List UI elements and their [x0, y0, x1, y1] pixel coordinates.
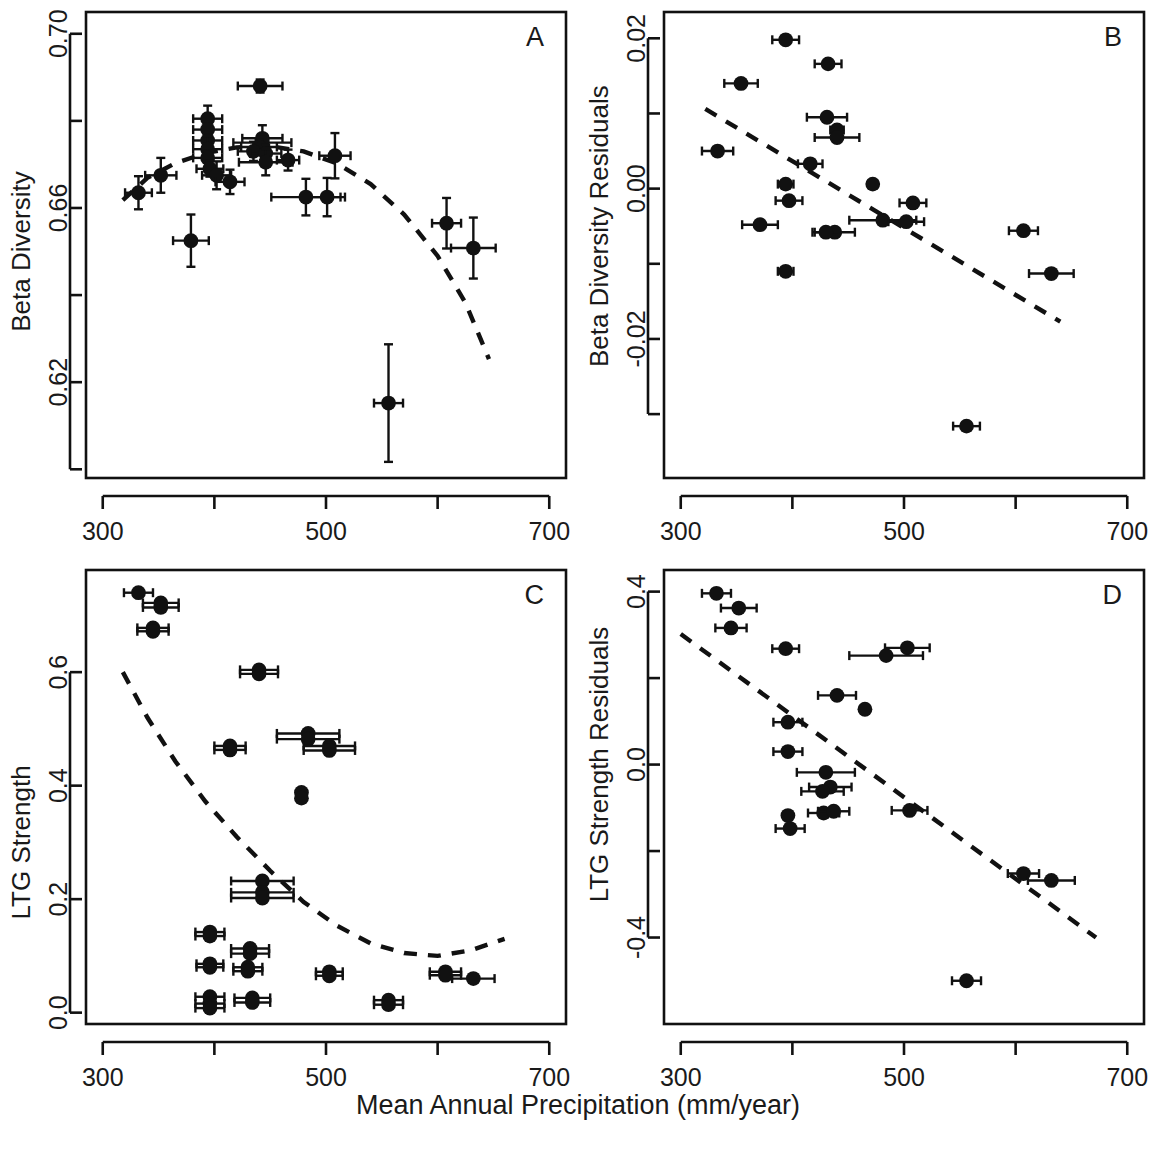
plot-frame [86, 12, 566, 478]
data-point [243, 946, 258, 961]
data-point [781, 808, 796, 823]
y-axis-title: LTG Strength [6, 765, 36, 919]
data-point [778, 641, 793, 656]
data-point [783, 821, 798, 836]
y-tick-label: 0.0 [622, 747, 650, 782]
data-point [830, 130, 845, 145]
data-point [858, 702, 873, 717]
data-point [223, 174, 238, 189]
data-point [466, 971, 481, 986]
data-point [724, 621, 739, 636]
data-point [322, 743, 337, 758]
data-points [124, 585, 495, 1015]
data-point [153, 168, 168, 183]
data-point [281, 153, 296, 168]
data-point [899, 214, 914, 229]
data-point [753, 217, 768, 232]
x-tick-label: 300 [660, 1063, 702, 1091]
data-point [803, 156, 818, 171]
data-point [184, 233, 199, 248]
data-point [203, 1001, 218, 1016]
data-point [245, 995, 260, 1010]
x-tick-label: 500 [883, 1063, 925, 1091]
trend-line [123, 672, 505, 956]
y-tick-label: 0.0 [44, 995, 72, 1030]
data-point [203, 960, 218, 975]
y-tick-label: 0.66 [44, 184, 72, 233]
x-tick-label: 300 [660, 517, 702, 545]
data-point [146, 624, 161, 639]
data-point [223, 742, 238, 757]
data-point [439, 216, 454, 231]
panel-letter-c: C [525, 580, 545, 610]
data-point [438, 968, 453, 983]
data-point [959, 973, 974, 988]
data-point [258, 155, 273, 170]
data-point [906, 196, 921, 211]
data-point [294, 791, 309, 806]
plot-b: 0.020.00-0.02300500700Beta Diversity Res… [578, 0, 1156, 545]
data-point [709, 586, 724, 601]
y-tick-label: 0.6 [44, 655, 72, 690]
plot-a: 0.700.660.62300500700Beta DiversityA [0, 0, 578, 545]
data-point [778, 32, 793, 47]
data-point [131, 585, 146, 600]
data-point [203, 929, 218, 944]
plot-d: 0.40.0-0.4300500700LTG Strength Residual… [578, 556, 1156, 1101]
data-point [731, 601, 746, 616]
x-tick-label: 700 [1106, 517, 1148, 545]
data-point [153, 600, 168, 615]
data-point [246, 144, 261, 159]
data-point [778, 177, 793, 192]
data-point [900, 640, 915, 655]
panel-d-ltg-strength-residuals: 0.40.0-0.4300500700LTG Strength Residual… [578, 556, 1156, 1101]
data-point [781, 715, 796, 730]
y-axis-title: Beta Diversity Residuals [584, 85, 614, 367]
trend-line [681, 634, 1096, 938]
data-point [1044, 266, 1059, 281]
plot-c: 0.00.20.40.6300500700LTG StrengthC [0, 556, 578, 1101]
data-point [322, 968, 337, 983]
y-tick-label: 0.70 [44, 9, 72, 58]
data-point [255, 891, 270, 906]
x-tick-label: 300 [82, 517, 124, 545]
data-points [702, 32, 1074, 433]
data-point [879, 648, 894, 663]
data-point [902, 803, 917, 818]
data-point [821, 56, 836, 71]
panel-letter-d: D [1103, 580, 1123, 610]
data-point [328, 148, 343, 163]
y-axis-title: Beta Diversity [6, 171, 36, 331]
data-point [466, 241, 481, 256]
data-point [320, 190, 335, 205]
data-point [782, 193, 797, 208]
data-point [252, 666, 267, 681]
data-point [381, 997, 396, 1012]
data-point [240, 964, 255, 979]
x-tick-label: 500 [305, 1063, 347, 1091]
panel-a-beta-diversity: 0.700.660.62300500700Beta DiversityA [0, 0, 578, 545]
y-tick-label: -0.02 [622, 310, 650, 367]
panel-c-ltg-strength: 0.00.20.40.6300500700LTG StrengthC [0, 556, 578, 1101]
data-point [1044, 873, 1059, 888]
y-axis-title: LTG Strength Residuals [584, 627, 614, 903]
x-tick-label: 700 [528, 1063, 570, 1091]
data-points [125, 79, 496, 462]
data-point [1016, 223, 1031, 238]
y-tick-label: 0.00 [622, 164, 650, 213]
y-tick-label: 0.4 [44, 768, 72, 803]
plot-frame [86, 570, 566, 1024]
data-point [826, 804, 841, 819]
data-points [702, 586, 1075, 988]
figure-root: 0.700.660.62300500700Beta DiversityA 0.0… [0, 0, 1156, 1153]
x-tick-label: 300 [82, 1063, 124, 1091]
data-point [131, 185, 146, 200]
data-point [710, 144, 725, 159]
y-tick-label: 0.4 [622, 574, 650, 609]
data-point [830, 688, 845, 703]
panel-letter-a: A [526, 22, 544, 52]
data-point [253, 79, 268, 94]
y-tick-label: 0.2 [44, 882, 72, 917]
x-tick-label: 700 [528, 517, 570, 545]
data-point [778, 264, 793, 279]
